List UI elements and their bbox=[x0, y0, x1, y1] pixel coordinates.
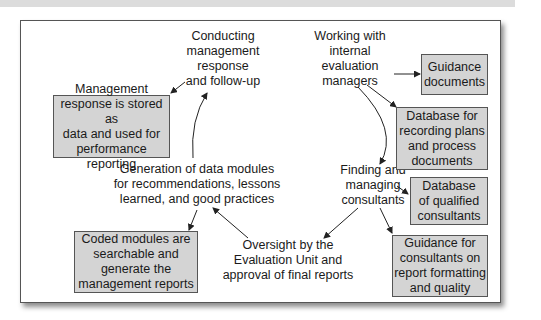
arrow-finding-to-guidance-consultants bbox=[380, 208, 392, 233]
box-line: performance reporting bbox=[54, 142, 169, 172]
box-line: Coded modules are bbox=[78, 232, 193, 247]
node-line: response bbox=[178, 59, 268, 74]
node-conducting: Conducting management response and follo… bbox=[178, 29, 268, 89]
box-database-plans: Database for recording plans and process… bbox=[396, 107, 488, 170]
box-line: response is stored as bbox=[54, 97, 169, 127]
box-line: documents bbox=[399, 154, 484, 169]
node-line: Oversight by the bbox=[213, 238, 363, 253]
node-line: and follow-up bbox=[178, 74, 268, 89]
node-line: learned, and good practices bbox=[112, 192, 282, 207]
node-line: Working with bbox=[305, 29, 395, 44]
box-line: documents bbox=[424, 75, 485, 90]
box-line: Management bbox=[54, 82, 169, 97]
box-line: management reports bbox=[78, 277, 193, 292]
node-line: management bbox=[178, 44, 268, 59]
box-line: report formatting bbox=[394, 266, 486, 281]
box-line: consultants on bbox=[394, 251, 486, 266]
node-line: Conducting bbox=[178, 29, 268, 44]
node-line: approval of final reports bbox=[213, 268, 363, 283]
node-line: managers bbox=[305, 74, 395, 89]
node-working: Working with internal evaluation manager… bbox=[305, 29, 395, 89]
arrow-generation-to-conducting bbox=[193, 93, 207, 158]
box-line: Database for bbox=[399, 109, 484, 124]
box-line: data and used for bbox=[54, 127, 169, 142]
node-line: evaluation bbox=[305, 59, 395, 74]
box-line: recording plans bbox=[399, 124, 484, 139]
arrow-finding-to-oversight bbox=[324, 208, 358, 238]
box-database-consultants: Database of qualified consultants bbox=[410, 177, 488, 225]
arrow-generation-to-coded-modules bbox=[189, 210, 197, 230]
node-line: consultants bbox=[328, 193, 418, 208]
box-coded-modules: Coded modules are searchable and generat… bbox=[74, 231, 198, 293]
box-guidance-documents: Guidance documents bbox=[421, 54, 488, 95]
node-line: managing bbox=[328, 178, 418, 193]
box-management-response: Management response is stored as data an… bbox=[53, 95, 170, 158]
node-line: Evaluation Unit and bbox=[213, 253, 363, 268]
node-line: internal bbox=[305, 44, 395, 59]
node-line: for recommendations, lessons bbox=[112, 177, 282, 192]
box-line: and quality bbox=[394, 281, 486, 296]
box-guidance-consultants: Guidance for consultants on report forma… bbox=[392, 235, 488, 297]
arrow-oversight-to-generation bbox=[213, 208, 248, 238]
node-oversight: Oversight by the Evaluation Unit and app… bbox=[213, 238, 363, 283]
box-line: Database bbox=[417, 179, 480, 194]
box-line: generate the bbox=[78, 262, 193, 277]
box-line: Guidance for bbox=[394, 236, 486, 251]
box-line: and process bbox=[399, 139, 484, 154]
box-line: consultants bbox=[417, 209, 480, 224]
box-line: searchable and bbox=[78, 247, 193, 262]
arrow-working-to-finding bbox=[358, 87, 386, 164]
box-line: Guidance bbox=[424, 60, 485, 75]
box-line: of qualified bbox=[417, 194, 480, 209]
